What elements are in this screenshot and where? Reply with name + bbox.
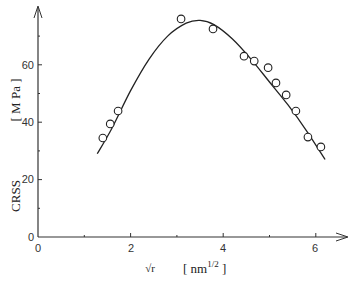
y-tick-label-20: 20 (22, 173, 34, 185)
fit-curve (97, 20, 325, 159)
data-point-marker (317, 143, 325, 151)
y-tick-label-60: 60 (22, 59, 34, 71)
x-tick-label-0: 0 (35, 242, 41, 254)
x-tick-label-4: 4 (220, 242, 226, 254)
y-axis-title: CRSS (8, 180, 23, 212)
x-tick-label-2: 2 (128, 242, 134, 254)
x-axis-title: √r (145, 262, 155, 274)
data-point-marker (282, 91, 290, 99)
data-point-marker (106, 120, 114, 128)
data-point-marker (250, 57, 258, 65)
x-axis-unit: [ nm1/2 ] (183, 259, 226, 276)
data-point-marker (99, 134, 107, 142)
y-tick-label-40: 40 (22, 116, 34, 128)
data-points (99, 15, 325, 151)
data-point-marker (114, 107, 122, 115)
x-tick-label-6: 6 (312, 242, 318, 254)
data-point-marker (264, 64, 272, 72)
x-axis-unit-pre: [ nm (183, 261, 207, 276)
x-axis-unit-post: ] (219, 261, 227, 276)
chart-canvas: 0 20 40 60 0 2 4 6 CRSS [ M Pa ] √r [ nm… (0, 0, 357, 285)
data-point-marker (240, 52, 248, 60)
data-point-marker (272, 79, 280, 87)
y-axis-unit: [ M Pa ] (8, 79, 23, 122)
data-point-marker (177, 15, 185, 23)
data-point-marker (304, 133, 312, 141)
x-axis-unit-sup: 1/2 (207, 259, 219, 269)
data-point-marker (292, 107, 300, 115)
data-point-marker (209, 25, 217, 33)
y-tick-label-0: 0 (28, 231, 34, 243)
